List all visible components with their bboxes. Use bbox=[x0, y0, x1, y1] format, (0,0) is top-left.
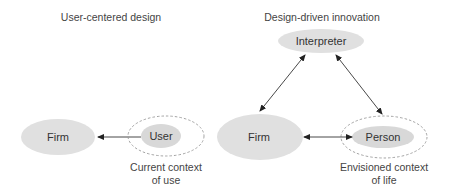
person-label: Person bbox=[366, 131, 401, 143]
envisioned-context-caption-line1: Envisioned context bbox=[340, 161, 428, 173]
arrow-interpreter-person bbox=[336, 55, 382, 114]
person-context-group: Person bbox=[341, 116, 427, 158]
diagram-canvas: User-centered design Firm User Current c… bbox=[0, 0, 450, 192]
interpreter-node: Interpreter bbox=[278, 29, 364, 53]
user-centered-design-panel: User-centered design Firm User Current c… bbox=[21, 11, 204, 186]
envisioned-context-caption-line2: of life bbox=[371, 174, 396, 186]
design-driven-innovation-panel: Design-driven innovation Interpreter Fir… bbox=[217, 11, 428, 186]
firm-node-left: Firm bbox=[21, 119, 95, 155]
arrow-interpreter-firm bbox=[260, 55, 305, 111]
current-context-caption-line2: of use bbox=[152, 174, 181, 186]
current-context-caption-line1: Current context bbox=[130, 161, 202, 173]
firm-label-right: Firm bbox=[248, 131, 270, 143]
panel-title-user-centered: User-centered design bbox=[61, 11, 162, 23]
firm-node-right: Firm bbox=[217, 114, 303, 160]
user-label: User bbox=[149, 130, 173, 142]
diagram-svg: User-centered design Firm User Current c… bbox=[0, 0, 450, 192]
firm-label: Firm bbox=[47, 131, 69, 143]
panel-title-design-driven: Design-driven innovation bbox=[264, 11, 380, 23]
user-context-group: User bbox=[128, 116, 204, 156]
interpreter-label: Interpreter bbox=[296, 35, 347, 47]
